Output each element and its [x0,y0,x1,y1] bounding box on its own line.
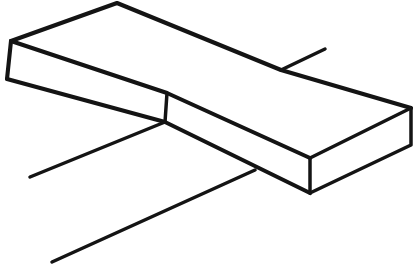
mid-break-vertical-edge [165,93,167,122]
figure-canvas [0,0,419,273]
line-drawing-figure [0,0,419,273]
